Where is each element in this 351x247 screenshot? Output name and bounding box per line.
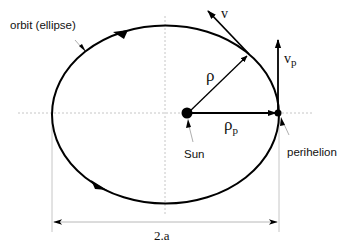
- sun-label-leader: [189, 126, 193, 142]
- sun-label: Sun: [184, 148, 204, 160]
- velocity-label: v: [221, 6, 228, 21]
- perihelion-radius-main: ρ: [224, 115, 232, 134]
- major-axis-label: 2.a: [154, 228, 170, 243]
- perihelion-radius-label: ρp: [224, 115, 238, 136]
- orbit-direction-arrow-bottom: [91, 180, 107, 190]
- velocity-vector: [208, 11, 249, 54]
- radius-vector: [188, 56, 247, 113]
- sun-leader-arrowhead: [186, 119, 191, 128]
- orbit-label: orbit (ellipse): [10, 19, 76, 31]
- guide-lines: [18, 16, 312, 215]
- perihelion-velocity-subscript: p: [291, 56, 297, 68]
- dimension-extension-lines: [52, 113, 279, 232]
- radius-label: ρ: [206, 66, 214, 85]
- perihelion-radius-subscript: p: [232, 124, 238, 136]
- perihelion-velocity-label: vp: [284, 51, 297, 68]
- sun-marker: [182, 108, 193, 119]
- perihelion-velocity-main: v: [284, 51, 291, 66]
- perihelion-label: perihelion: [287, 146, 337, 158]
- perihelion-leader-arrowhead: [280, 117, 285, 126]
- perihelion-marker: [275, 110, 282, 117]
- orbit-ellipse: [52, 26, 279, 204]
- orbit-diagram: orbit (ellipse) v vp ρ ρp Sun perihelion…: [0, 0, 351, 247]
